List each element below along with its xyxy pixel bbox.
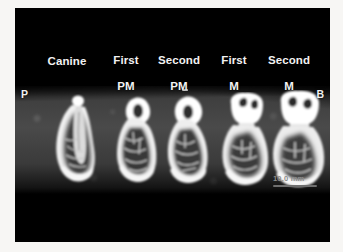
column-label-first-pm-line2: PM bbox=[117, 80, 134, 92]
column-label-canine: Canine bbox=[31, 55, 103, 68]
tooth-slice-canine bbox=[43, 94, 115, 194]
column-label-first-pm-line1: First bbox=[113, 54, 138, 66]
orientation-marker-palatal: P bbox=[21, 88, 28, 100]
radiograph-image-panel: P B Canine First PM Second PM First M Se… bbox=[15, 8, 330, 242]
column-label-second-pm-line2: PM bbox=[170, 80, 187, 92]
figure-root: P B Canine First PM Second PM First M Se… bbox=[0, 0, 343, 252]
scale-bar-label: 10.0 mm bbox=[273, 174, 325, 183]
scale-bar: 10.0 mm bbox=[273, 174, 325, 187]
column-label-first-m-line1: First bbox=[221, 54, 246, 66]
column-label-second-m-line2: M bbox=[284, 80, 294, 92]
column-label-second-pm-line1: Second bbox=[158, 54, 200, 66]
column-label-second-m-line1: Second bbox=[268, 54, 310, 66]
column-label-first-m: First M bbox=[207, 41, 261, 93]
column-label-second-m: Second M bbox=[257, 41, 321, 93]
column-label-first-m-line2: M bbox=[229, 80, 239, 92]
scale-bar-line bbox=[273, 185, 317, 187]
column-label-second-pm: Second PM bbox=[147, 41, 211, 93]
